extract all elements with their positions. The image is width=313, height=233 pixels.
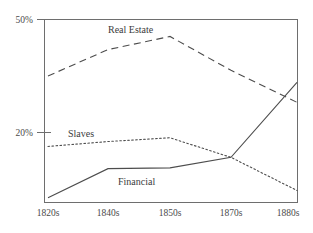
x-tick-label-1820s: 1820s <box>37 208 60 218</box>
series-annotation-slaves: Slaves <box>68 128 94 139</box>
x-tick-label-1870s: 1870s <box>220 208 243 218</box>
series-annotation-financial: Financial <box>118 176 155 187</box>
series-annotation-real-estate: Real Estate <box>108 24 154 35</box>
x-tick-label-1850s: 1850s <box>159 208 182 218</box>
chart-background <box>0 0 313 233</box>
y-tick-label-50: 50% <box>16 15 34 25</box>
y-tick-label-20: 20% <box>16 128 34 138</box>
chart-plot-svg: 50% 20% 1820s 1840s 1850s 1870s 1880s Re… <box>0 0 313 233</box>
x-tick-label-1840s: 1840s <box>97 208 120 218</box>
chart-figure: 50% 20% 1820s 1840s 1850s 1870s 1880s Re… <box>0 0 313 233</box>
x-tick-label-1880s: 1880s <box>277 208 300 218</box>
